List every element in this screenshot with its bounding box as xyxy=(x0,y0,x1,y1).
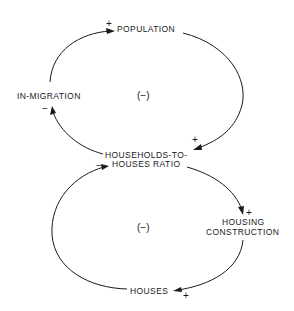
polarity-construction: + xyxy=(246,207,252,218)
polarity-inmigration: − xyxy=(42,103,48,114)
node-construction-line1: HOUSING xyxy=(222,217,264,227)
causal-loop-diagram: POPULATION IN-MIGRATION HOUSEHOLDS-TO- H… xyxy=(0,0,294,311)
node-ratio-line2: HOUSES RATIO xyxy=(112,159,180,169)
arrowhead-inmigration xyxy=(50,106,56,115)
polarity-ratio-lower: − xyxy=(96,160,102,171)
polarity-houses: + xyxy=(183,290,189,301)
link-ratio-to-inmigration xyxy=(53,112,103,154)
link-inmigration-to-population xyxy=(50,31,110,82)
link-houses-to-ratio xyxy=(52,167,127,289)
polarity-population: + xyxy=(106,18,112,29)
node-houses: HOUSES xyxy=(130,286,168,296)
arrowhead-houses xyxy=(173,287,182,292)
polarity-ratio-upper: + xyxy=(192,134,198,145)
link-construction-to-houses xyxy=(178,240,243,290)
loop-polarity-upper: (−) xyxy=(137,90,150,101)
link-population-to-ratio xyxy=(183,33,243,148)
node-construction-line2: CONSTRUCTION xyxy=(206,227,279,237)
node-in-migration: IN-MIGRATION xyxy=(17,91,81,101)
loop-polarity-lower: (−) xyxy=(137,222,150,233)
link-ratio-to-construction xyxy=(187,167,242,210)
node-population: POPULATION xyxy=(117,24,175,34)
arrowhead-ratio-lower xyxy=(101,164,109,170)
arrowhead-construction xyxy=(238,206,244,215)
